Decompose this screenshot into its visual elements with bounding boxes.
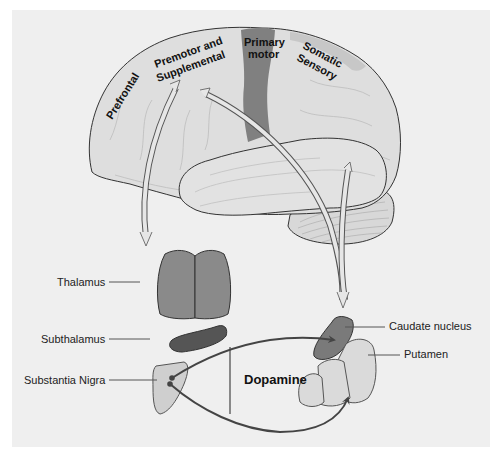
thalamus	[157, 250, 230, 318]
basal-ganglia-diagram: Prefrontal Premotor and Supplemental Pri…	[0, 0, 501, 460]
label-dopamine: Dopamine	[244, 372, 307, 387]
label-primary-motor-line2: motor	[248, 48, 280, 60]
substantia-nigra	[153, 362, 188, 414]
label-primary-motor-line1: Primary	[244, 36, 286, 48]
label-thalamus: Thalamus	[57, 276, 106, 288]
label-subthalamus: Subthalamus	[41, 333, 106, 345]
label-substantia-nigra: Substantia Nigra	[24, 374, 106, 386]
label-caudate-nucleus: Caudate nucleus	[389, 320, 472, 332]
label-putamen: Putamen	[404, 348, 448, 360]
subthalamus	[170, 326, 227, 352]
